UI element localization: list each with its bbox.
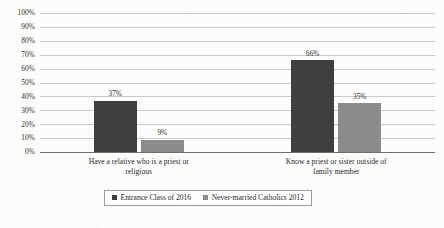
scan-speck bbox=[190, 8, 191, 9]
y-axis-tick-label: 50% bbox=[21, 79, 35, 86]
y-axis-tick-label: 20% bbox=[21, 121, 35, 128]
y-axis-tick-label: 100% bbox=[18, 9, 35, 16]
scan-speck bbox=[436, 178, 437, 179]
y-axis-tick-label: 70% bbox=[21, 51, 35, 58]
scan-speck bbox=[210, 206, 211, 207]
x-axis-category-label: Have a relative who is a priest orreligi… bbox=[39, 157, 239, 176]
legend-label: Entrance Class of 2016 bbox=[121, 194, 192, 202]
category-label-line: Have a relative who is a priest or bbox=[39, 157, 239, 167]
bar-value-label: 9% bbox=[129, 129, 196, 136]
plot-area: 37%9%66%35% bbox=[40, 13, 435, 152]
legend-swatch-icon bbox=[203, 195, 208, 200]
bar-value-label: 35% bbox=[326, 93, 393, 100]
x-axis-category-label: Know a priest or sister outside offamily… bbox=[236, 157, 436, 176]
y-axis-tick-label: 80% bbox=[21, 37, 35, 44]
scan-speck bbox=[6, 120, 7, 121]
legend-item-never-married-catholics-2012[interactable]: Never-married Catholics 2012 bbox=[203, 194, 304, 202]
y-axis-tick-label: 30% bbox=[21, 107, 35, 114]
y-axis-tick-label: 10% bbox=[21, 134, 35, 141]
bar-value-label: 66% bbox=[279, 50, 346, 57]
bar-never-married-catholics-2012[interactable] bbox=[338, 103, 381, 152]
y-axis-tick-label: 60% bbox=[21, 65, 35, 72]
category-label-line: religious bbox=[39, 167, 239, 177]
y-axis-tick-label: 40% bbox=[21, 93, 35, 100]
scan-speck bbox=[338, 221, 339, 222]
scan-speck bbox=[62, 218, 63, 219]
scan-speck bbox=[430, 60, 431, 61]
legend-item-entrance-class-2016[interactable]: Entrance Class of 2016 bbox=[112, 194, 191, 202]
bar-value-label: 37% bbox=[82, 90, 149, 97]
category-label-line: Know a priest or sister outside of bbox=[236, 157, 436, 167]
bar-entrance-class-2016[interactable] bbox=[94, 101, 137, 152]
axis-baseline bbox=[40, 152, 435, 153]
bar-never-married-catholics-2012[interactable] bbox=[141, 140, 184, 153]
legend-label: Never-married Catholics 2012 bbox=[212, 194, 304, 202]
chart-legend: Entrance Class of 2016 Never-married Cat… bbox=[104, 190, 312, 206]
category-label-line: family member bbox=[236, 167, 436, 177]
bar-chart: 100%90%80%70%60%50%40%30%20%10%0% 37%9%6… bbox=[0, 0, 444, 228]
y-axis-tick-label: 0% bbox=[25, 148, 35, 155]
legend-swatch-icon bbox=[112, 195, 117, 200]
bars-layer: 37%9%66%35% bbox=[40, 13, 435, 152]
y-axis-labels: 100%90%80%70%60%50%40%30%20%10%0% bbox=[0, 0, 38, 228]
y-axis-tick-label: 90% bbox=[21, 23, 35, 30]
bar-entrance-class-2016[interactable] bbox=[291, 60, 334, 152]
scan-speck bbox=[96, 224, 97, 225]
scan-speck bbox=[402, 9, 403, 10]
